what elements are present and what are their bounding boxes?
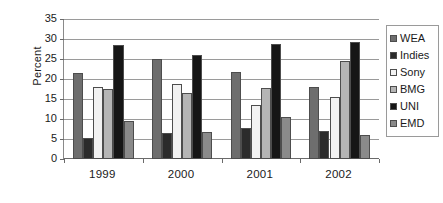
x-tick-mark-4 <box>379 159 380 163</box>
x-category-label-2000: 2000 <box>142 168 221 180</box>
legend-swatch-emd-icon <box>390 120 397 127</box>
legend-item-label: UNI <box>400 101 419 112</box>
bar-group-2002 <box>309 19 370 159</box>
legend-item-label: WEA <box>400 33 425 44</box>
bar-group-1999 <box>73 19 134 159</box>
bar-bmg-2002 <box>340 61 350 159</box>
bar-emd-2000 <box>202 132 212 159</box>
y-tick-mark-30 <box>60 39 64 40</box>
bar-uni-2001 <box>271 44 281 159</box>
legend-swatch-wea-icon <box>390 35 397 42</box>
bar-emd-2001 <box>281 117 291 159</box>
y-tick-mark-20 <box>60 79 64 80</box>
x-tick-mark-0 <box>64 159 65 163</box>
legend-item-wea[interactable]: WEA <box>390 30 436 47</box>
legend-item-uni[interactable]: UNI <box>390 98 436 115</box>
x-category-label-1999: 1999 <box>63 168 142 180</box>
x-tick-mark-2 <box>222 159 223 163</box>
y-tick-mark-35 <box>60 19 64 20</box>
bar-indies-2002 <box>319 131 329 159</box>
legend-item-emd[interactable]: EMD <box>390 115 436 132</box>
y-tick-mark-5 <box>60 139 64 140</box>
bar-group-2001 <box>231 19 292 159</box>
bar-uni-1999 <box>113 45 123 159</box>
x-category-label-2002: 2002 <box>299 168 378 180</box>
legend-item-label: Indies <box>400 50 429 61</box>
bar-uni-2000 <box>192 55 202 159</box>
y-tick-label-10: 10 <box>11 113 57 124</box>
bar-sony-2002 <box>330 97 340 159</box>
bar-group-2000 <box>152 19 213 159</box>
legend-item-sony[interactable]: Sony <box>390 64 436 81</box>
x-category-label-2001: 2001 <box>221 168 300 180</box>
bar-sony-1999 <box>93 87 103 159</box>
y-tick-mark-15 <box>60 99 64 100</box>
legend-item-indies[interactable]: Indies <box>390 47 436 64</box>
y-tick-label-5: 5 <box>11 133 57 144</box>
bar-chart: Percent WEAIndiesSonyBMGUNIEMD 051015202… <box>0 0 443 203</box>
legend-item-label: Sony <box>400 67 425 78</box>
y-tick-mark-25 <box>60 59 64 60</box>
bar-bmg-2001 <box>261 88 271 159</box>
bar-wea-1999 <box>73 73 83 159</box>
legend-swatch-bmg-icon <box>390 86 397 93</box>
bar-bmg-2000 <box>182 93 192 159</box>
legend-item-label: BMG <box>400 84 425 95</box>
bar-wea-2002 <box>309 87 319 159</box>
legend-item-label: EMD <box>400 118 424 129</box>
bar-wea-2001 <box>231 72 241 159</box>
y-tick-label-35: 35 <box>11 13 57 24</box>
y-tick-label-30: 30 <box>11 33 57 44</box>
legend-item-bmg[interactable]: BMG <box>390 81 436 98</box>
y-tick-label-0: 0 <box>11 153 57 164</box>
y-tick-label-15: 15 <box>11 93 57 104</box>
bar-bmg-1999 <box>103 89 113 159</box>
bar-emd-1999 <box>124 121 134 159</box>
bar-sony-2000 <box>172 84 182 159</box>
y-tick-mark-10 <box>60 119 64 120</box>
bar-indies-2000 <box>162 133 172 159</box>
y-tick-label-20: 20 <box>11 73 57 84</box>
legend-swatch-uni-icon <box>390 103 397 110</box>
legend-swatch-sony-icon <box>390 69 397 76</box>
x-tick-mark-3 <box>300 159 301 163</box>
x-tick-mark-1 <box>143 159 144 163</box>
bar-uni-2002 <box>350 42 360 159</box>
bar-indies-1999 <box>83 138 93 159</box>
plot-inner <box>64 19 379 159</box>
plot-area <box>63 19 379 159</box>
y-tick-label-25: 25 <box>11 53 57 64</box>
bar-wea-2000 <box>152 59 162 159</box>
bar-indies-2001 <box>241 128 251 159</box>
bar-sony-2001 <box>251 105 261 159</box>
legend-swatch-indies-icon <box>390 52 397 59</box>
bar-emd-2002 <box>360 135 370 159</box>
chart-legend: WEAIndiesSonyBMGUNIEMD <box>386 25 439 137</box>
